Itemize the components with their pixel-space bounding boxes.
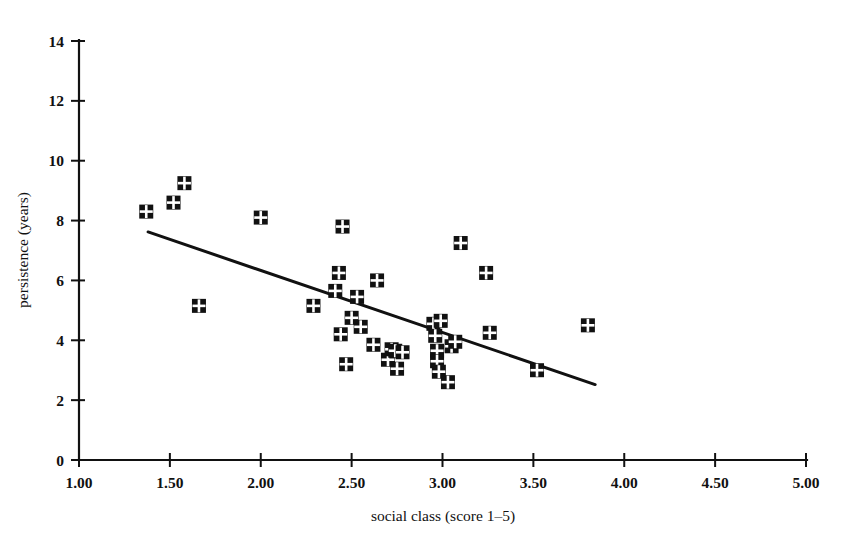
data-point-marker [581, 318, 595, 332]
y-axis-title: persistence (years) [14, 192, 32, 308]
x-tick-label: 3.50 [520, 474, 547, 491]
x-tick-label: 2.00 [247, 474, 274, 491]
x-tick-label: 2.50 [338, 474, 365, 491]
y-tick-label: 12 [49, 92, 65, 109]
y-tick-label: 6 [56, 272, 64, 289]
data-point-marker [366, 338, 380, 352]
plot-canvas: 1.001.502.002.503.003.504.004.505.00 024… [0, 0, 850, 556]
data-point-marker [177, 176, 191, 190]
data-point-marker [483, 326, 497, 340]
regression-line [148, 232, 595, 385]
data-point-marker [339, 357, 353, 371]
x-tick-label: 4.00 [611, 474, 638, 491]
x-axis-title: social class (score 1–5) [371, 507, 515, 525]
data-point-marker [167, 196, 181, 210]
data-point-marker [354, 320, 368, 334]
data-point-marker [448, 335, 462, 349]
y-tick-labels: 02468101214 [49, 33, 65, 469]
data-point-marker [306, 299, 320, 313]
data-point-marker [192, 299, 206, 313]
x-tick-label: 5.00 [792, 474, 819, 491]
x-tick-label: 1.00 [65, 474, 92, 491]
y-tick-label: 10 [49, 152, 65, 169]
x-tick-labels: 1.001.502.002.503.003.504.004.505.00 [65, 474, 819, 491]
data-point-marker [454, 236, 468, 250]
data-point-marker [441, 375, 455, 389]
x-tick-label: 1.50 [156, 474, 183, 491]
y-tick-label: 14 [49, 33, 65, 50]
data-point-marker [254, 211, 268, 225]
data-point-marker [530, 363, 544, 377]
x-tick-label: 4.50 [702, 474, 729, 491]
data-point-marker [479, 266, 493, 280]
data-point-marker [334, 327, 348, 341]
data-point-marker [336, 220, 350, 234]
data-point-marker [332, 266, 346, 280]
data-point-marker [390, 362, 404, 376]
y-tick-label: 2 [56, 392, 64, 409]
x-tick-label: 3.00 [429, 474, 456, 491]
data-point-marker [350, 290, 364, 304]
scatter-plot-figure: 1.001.502.002.503.003.504.004.505.00 024… [0, 0, 850, 556]
y-tick-label: 4 [56, 332, 64, 349]
data-point-marker [139, 205, 153, 219]
regression-fit-line [148, 232, 595, 385]
data-points [139, 176, 595, 389]
data-point-marker [428, 329, 442, 343]
data-point-marker [370, 273, 384, 287]
data-point-marker [328, 284, 342, 298]
data-point-marker [396, 345, 410, 359]
y-tick-label: 8 [56, 212, 64, 229]
y-tick-label: 0 [56, 452, 64, 469]
data-point-marker [434, 314, 448, 328]
axes-group [79, 40, 807, 460]
